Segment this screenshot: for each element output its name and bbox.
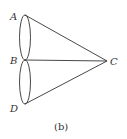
point-label-b: B (9, 55, 17, 66)
point-label-d: D (9, 103, 18, 114)
figure-caption: (b) (54, 121, 68, 132)
lower-cone-base-ellipse (20, 60, 31, 104)
segment-bc (25, 60, 107, 61)
cone-diagram: A B C D (b) (0, 0, 127, 139)
segment-dc (25, 61, 107, 104)
point-label-c: C (110, 56, 118, 67)
point-label-a: A (9, 11, 17, 22)
upper-cone-base-ellipse (20, 15, 31, 60)
segment-ac (25, 15, 107, 61)
